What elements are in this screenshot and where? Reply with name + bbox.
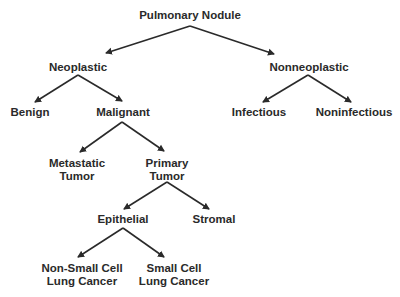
node-stromal: Stromal: [193, 213, 236, 226]
node-label: Malignant: [96, 106, 150, 119]
node-label-line1: Metastatic: [49, 157, 105, 170]
node-metastatic-tumor: Metastatic Tumor: [49, 157, 105, 183]
node-nonneoplastic: Nonneoplastic: [269, 61, 348, 74]
node-label-line2: Tumor: [146, 170, 189, 183]
node-label-line2: Lung Cancer: [139, 275, 209, 288]
node-pulmonary-nodule: Pulmonary Nodule: [139, 9, 241, 22]
node-noninfectious: Noninfectious: [316, 106, 393, 119]
arrow-malignant-to-metastatic: [80, 122, 122, 152]
node-label-line2: Tumor: [49, 170, 105, 183]
arrow-root-to-nonneoplastic: [190, 26, 274, 54]
arrow-primary-to-stromal: [167, 182, 209, 209]
node-label: Stromal: [193, 213, 236, 226]
edges-layer: [0, 0, 400, 297]
node-label: Nonneoplastic: [269, 61, 348, 74]
node-label: Pulmonary Nodule: [139, 9, 241, 22]
node-primary-tumor: Primary Tumor: [146, 157, 189, 183]
node-label: Benign: [11, 106, 50, 119]
arrow-root-to-neoplastic: [106, 26, 190, 53]
arrow-neoplastic-to-benign: [35, 75, 78, 102]
node-benign: Benign: [11, 106, 50, 119]
arrow-nonneoplastic-to-infectious: [263, 75, 308, 102]
arrow-neoplastic-to-malignant: [78, 75, 122, 101]
node-malignant: Malignant: [96, 106, 150, 119]
node-epithelial: Epithelial: [97, 213, 148, 226]
node-infectious: Infectious: [232, 106, 286, 119]
node-non-small-cell-lung-cancer: Non-Small Cell Lung Cancer: [41, 262, 122, 288]
arrow-nonneoplastic-to-noninfectious: [308, 75, 351, 102]
node-neoplastic: Neoplastic: [49, 61, 107, 74]
arrow-malignant-to-primary: [122, 122, 164, 151]
node-small-cell-lung-cancer: Small Cell Lung Cancer: [139, 262, 209, 288]
node-label: Neoplastic: [49, 61, 107, 74]
tree-diagram: Pulmonary Nodule Neoplastic Nonneoplasti…: [0, 0, 400, 297]
arrow-epithelial-to-sclc: [123, 228, 164, 257]
node-label: Epithelial: [97, 213, 148, 226]
node-label-line2: Lung Cancer: [41, 275, 122, 288]
node-label-line1: Non-Small Cell: [41, 262, 122, 275]
node-label: Infectious: [232, 106, 286, 119]
node-label-line1: Small Cell: [139, 262, 209, 275]
node-label: Noninfectious: [316, 106, 393, 119]
node-label-line1: Primary: [146, 157, 189, 170]
arrow-epithelial-to-nsclc: [78, 228, 123, 257]
arrow-primary-to-epithelial: [124, 182, 167, 209]
